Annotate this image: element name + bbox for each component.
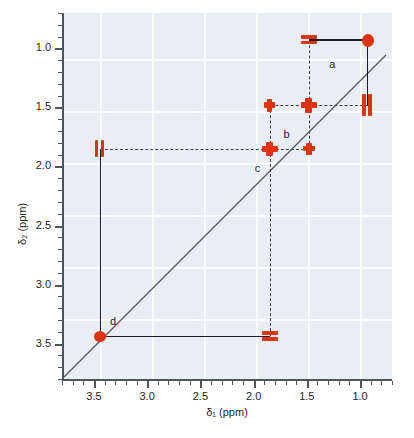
x-tick-minor <box>115 381 116 385</box>
x-axis-label: δ₁ (ppm) <box>157 406 297 418</box>
x-tick-label: 3.5 <box>74 390 114 402</box>
cross-peak[interactable] <box>262 331 278 341</box>
x-axis-spine <box>62 379 392 381</box>
x-tick-minor <box>371 381 372 385</box>
x-tick-minor <box>179 381 180 385</box>
coupling-label-c: c <box>255 162 261 174</box>
diagonal-peak[interactable] <box>362 34 374 47</box>
y-tick-minor <box>58 25 62 26</box>
y-tick-label: 3.5 <box>17 337 51 349</box>
dashed-correlation-line <box>309 40 310 105</box>
y-tick-minor <box>58 296 62 297</box>
x-tick-minor <box>232 381 233 385</box>
x-tick-label: 1.5 <box>287 390 327 402</box>
y-axis-spine <box>62 13 64 379</box>
y-tick-minor <box>58 84 62 85</box>
y-tick-major <box>55 166 62 168</box>
y-tick-minor <box>58 237 62 238</box>
x-tick-minor <box>137 381 138 385</box>
x-tick-minor <box>243 381 244 385</box>
x-tick-minor <box>381 381 382 385</box>
y-tick-major <box>55 285 62 287</box>
x-tick-label: 3.0 <box>127 390 167 402</box>
cross-peak[interactable] <box>301 35 317 45</box>
y-tick-minor <box>58 178 62 179</box>
y-tick-minor <box>58 273 62 274</box>
x-tick-minor <box>168 381 169 385</box>
y-tick-major <box>55 48 62 50</box>
solid-correlation-line <box>309 39 368 41</box>
x-tick-label: 2.0 <box>234 390 274 402</box>
dashed-correlation-line <box>100 149 309 150</box>
x-tick-major <box>94 381 96 388</box>
y-tick-minor <box>58 190 62 191</box>
y-tick-major <box>55 344 62 346</box>
y-tick-label: 2.0 <box>17 159 51 171</box>
y-tick-minor <box>58 131 62 132</box>
x-tick-minor <box>264 381 265 385</box>
coupling-label-d: d <box>110 315 116 327</box>
y-axis-label: δ₂ (ppm) <box>16 203 28 245</box>
y-tick-minor <box>58 119 62 120</box>
x-tick-major <box>200 381 202 388</box>
y-tick-minor <box>58 155 62 156</box>
x-tick-minor <box>328 381 329 385</box>
x-tick-major <box>360 381 362 388</box>
y-tick-minor <box>58 96 62 97</box>
dashed-correlation-line <box>270 149 271 337</box>
x-tick-minor <box>190 381 191 385</box>
y-tick-minor <box>58 261 62 262</box>
x-tick-major <box>147 381 149 388</box>
x-tick-minor <box>158 381 159 385</box>
coupling-label-a: a <box>329 58 335 70</box>
dashed-correlation-line <box>309 105 368 106</box>
diagonal-peak[interactable] <box>262 142 278 156</box>
cosy-spectrum-figure: abcd 3.53.02.52.01.51.0 1.01.52.02.53.03… <box>0 0 414 438</box>
x-tick-minor <box>83 381 84 385</box>
x-tick-minor <box>349 381 350 385</box>
y-tick-major <box>55 226 62 228</box>
y-tick-minor <box>58 72 62 73</box>
x-tick-minor <box>105 381 106 385</box>
y-tick-minor <box>58 202 62 203</box>
coupling-label-b: b <box>283 128 289 140</box>
diagonal-peak[interactable] <box>94 331 106 342</box>
x-tick-minor <box>211 381 212 385</box>
y-tick-minor <box>58 320 62 321</box>
x-tick-label: 1.0 <box>340 390 380 402</box>
y-tick-minor <box>58 143 62 144</box>
y-tick-minor <box>58 308 62 309</box>
x-tick-minor <box>317 381 318 385</box>
y-tick-major <box>55 107 62 109</box>
y-tick-minor <box>58 355 62 356</box>
y-tick-minor <box>58 214 62 215</box>
x-tick-major <box>307 381 309 388</box>
y-tick-label: 1.0 <box>17 41 51 53</box>
diagonal-peak[interactable] <box>301 98 317 113</box>
x-tick-minor <box>286 381 287 385</box>
y-tick-minor <box>58 332 62 333</box>
x-tick-minor <box>73 381 74 385</box>
cross-peak[interactable] <box>95 140 106 157</box>
x-tick-minor <box>296 381 297 385</box>
x-tick-label: 2.5 <box>180 390 220 402</box>
plot-area: abcd <box>62 13 392 379</box>
x-tick-minor <box>62 381 63 385</box>
solid-correlation-line <box>100 336 269 338</box>
x-tick-minor <box>126 381 127 385</box>
cross-peak[interactable] <box>362 94 373 116</box>
y-tick-minor <box>58 367 62 368</box>
y-tick-minor <box>58 379 62 380</box>
x-tick-minor <box>339 381 340 385</box>
y-tick-label: 1.5 <box>17 100 51 112</box>
x-tick-major <box>254 381 256 388</box>
y-tick-minor <box>58 249 62 250</box>
cross-peak[interactable] <box>303 143 315 155</box>
y-tick-minor <box>58 60 62 61</box>
solid-correlation-line <box>100 149 102 337</box>
cross-peak[interactable] <box>264 99 275 112</box>
y-tick-minor <box>58 37 62 38</box>
y-tick-label: 3.0 <box>17 278 51 290</box>
x-tick-minor <box>392 381 393 385</box>
x-tick-minor <box>222 381 223 385</box>
